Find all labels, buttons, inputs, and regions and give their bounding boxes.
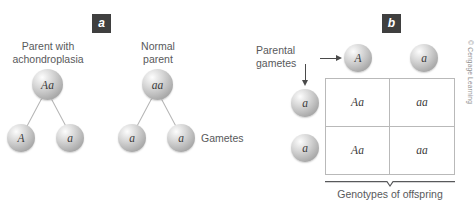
sphere-parent-right-gamete-2: a: [167, 124, 195, 152]
sphere-parent-left-gamete-2: a: [56, 124, 84, 152]
arrow-to-side-gamete-line: [305, 64, 306, 81]
sphere-side-gamete-1: a: [291, 89, 319, 117]
punnett-cell-r2c2: aa: [390, 127, 454, 175]
panel-a-badge: a: [92, 14, 111, 33]
sphere-top-gamete-2: a: [410, 44, 438, 72]
sphere-parent-right-gamete-1: a: [118, 124, 146, 152]
sphere-parent-left-genotype: Aa: [32, 69, 63, 100]
arrow-to-top-gamete-line: [320, 58, 337, 59]
pedigree-leg-left-a: [25, 99, 42, 129]
panel-b-badge: b: [382, 14, 401, 33]
punnett-cell-r1c1: Aa: [326, 79, 390, 127]
copyright-credit: © Cengage Learning: [467, 40, 474, 104]
punnett-cell-r2c1: Aa: [326, 127, 390, 175]
punnett-cell-r1c2: aa: [390, 79, 454, 127]
parent-left-caption: Parent with achondroplasia: [0, 40, 96, 65]
offspring-genotypes-label: Genotypes of offspring: [325, 188, 455, 201]
arrow-to-side-gamete-head: [302, 80, 308, 86]
offspring-bracket-icon: [325, 181, 455, 187]
sphere-top-gamete-1: A: [344, 44, 372, 72]
sphere-parent-left-gamete-1: A: [7, 124, 35, 152]
sphere-parent-right-genotype: aa: [142, 69, 173, 100]
achondroplasia-inheritance-figure: a Parent with achondroplasia Normal pare…: [0, 0, 475, 207]
parental-gametes-label: Parental gametes: [256, 44, 318, 69]
punnett-square: Aa aa Aa aa: [325, 78, 455, 175]
gametes-label: Gametes: [201, 132, 257, 145]
parent-right-caption: Normal parent: [122, 40, 194, 65]
arrow-to-top-gamete-head: [336, 55, 342, 61]
sphere-side-gamete-2: a: [291, 134, 319, 162]
